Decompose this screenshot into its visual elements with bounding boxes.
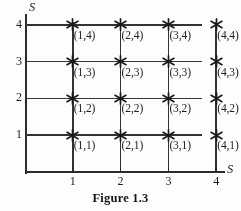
x-axis-label: S [227,163,233,176]
lattice-point-4-4 [210,18,223,31]
lattice-point-1-4 [66,18,79,31]
y-tick-label-3: 3 [8,55,22,68]
coordinate-label-2-2: (2,2) [122,102,144,114]
grid-line-horizontal-4 [25,24,202,26]
x-tick-4 [215,166,217,173]
coordinate-label-2-4: (2,4) [122,29,144,41]
lattice-point-2-3 [114,55,127,68]
x-tick-label-3: 3 [160,175,176,188]
coordinate-label-4-1: (4,1) [217,139,239,151]
x-tick-3 [168,166,170,173]
coordinate-label-4-3: (4,3) [217,66,239,78]
coordinate-label-2-3: (2,3) [122,66,144,78]
grid-line-vertical-4 [215,22,217,173]
grid-line-vertical-2 [120,22,122,173]
lattice-point-1-1 [66,129,79,142]
lattice-point-1-3 [66,55,79,68]
scan-layer: 1234 1234 S S (1,4)(2,4)(3,4)(4,4)(1,3)(… [0,0,241,211]
coordinate-label-1-4: (1,4) [74,29,96,41]
grid-line-horizontal-2 [25,98,202,100]
lattice-point-3-4 [162,18,175,31]
x-tick-2 [120,166,122,173]
grid-line-horizontal-3 [25,61,202,63]
grid-line-vertical-3 [168,22,170,173]
figure-1-3: 1234 1234 S S (1,4)(2,4)(3,4)(4,4)(1,3)(… [0,0,241,211]
y-axis-label: S [29,1,35,14]
grid-line-horizontal-1 [25,134,202,136]
lattice-point-3-2 [162,92,175,105]
x-tick-1 [72,166,74,173]
coordinate-label-3-1: (3,1) [169,139,191,151]
figure-caption: Figure 1.3 [0,191,241,206]
x-tick-label-4: 4 [208,175,224,188]
lattice-point-3-3 [162,55,175,68]
coordinate-label-3-4: (3,4) [169,29,191,41]
lattice-point-4-2 [210,92,223,105]
coordinate-label-4-4: (4,4) [217,29,239,41]
coordinate-label-1-3: (1,3) [74,66,96,78]
lattice-point-2-4 [114,18,127,31]
y-tick-label-4: 4 [8,18,22,31]
grid-line-vertical-1 [72,22,74,173]
coordinate-label-2-1: (2,1) [122,139,144,151]
coordinate-label-1-1: (1,1) [74,139,96,151]
lattice-point-2-1 [114,129,127,142]
x-tick-label-1: 1 [65,175,81,188]
coordinate-label-4-2: (4,2) [217,102,239,114]
coordinate-label-1-2: (1,2) [74,102,96,114]
coordinate-label-3-2: (3,2) [169,102,191,114]
y-tick-label-2: 2 [8,91,22,104]
x-tick-label-2: 2 [113,175,129,188]
coordinate-label-3-3: (3,3) [169,66,191,78]
lattice-point-4-1 [210,129,223,142]
lattice-point-3-1 [162,129,175,142]
x-axis-line [25,171,225,173]
lattice-point-2-2 [114,92,127,105]
lattice-point-1-2 [66,92,79,105]
y-tick-label-1: 1 [8,128,22,141]
lattice-point-4-3 [210,55,223,68]
y-axis-line [25,14,27,174]
